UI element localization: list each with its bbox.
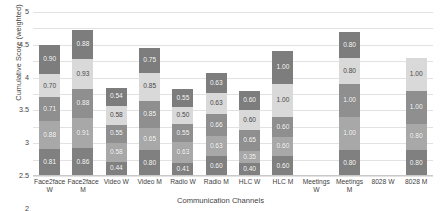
bar-segment-value: 0.60 [277, 124, 290, 131]
bar-segment-value: 0.88 [77, 41, 90, 48]
stacked-bar[interactable]: 0.750.850.850.650.80 [139, 48, 160, 176]
x-tick-label: 8028 W [366, 178, 399, 195]
stacked-bar[interactable]: 0.600.600.650.350.40 [239, 91, 260, 176]
x-tick-label: Face2faceM [66, 178, 99, 195]
bar-segment[interactable]: 0.55 [172, 89, 193, 107]
y-tick-label: 5 [25, 8, 29, 15]
bar-segment-value: 0.85 [143, 111, 156, 118]
bar-segment[interactable]: 0.80 [339, 58, 360, 84]
bar-slot[interactable]: 0.550.500.550.630.41 [166, 12, 199, 176]
bar-segment[interactable]: 0.91 [72, 118, 93, 148]
bar-segment-value: 0.93 [77, 71, 90, 78]
bar-segment-value: 0.44 [110, 165, 123, 172]
bar-segment[interactable]: 0.93 [72, 59, 93, 90]
bar-segment[interactable]: 0.80 [406, 124, 427, 150]
bar-segment[interactable]: 0.81 [39, 149, 60, 176]
x-tick-label-line: W [300, 186, 333, 194]
bar-segment[interactable]: 0.80 [139, 150, 160, 176]
x-tick-label: MeetingsW [300, 178, 333, 195]
bar-segment[interactable]: 0.63 [206, 136, 227, 157]
bar-segment-value: 0.40 [243, 166, 256, 173]
bar-segment[interactable]: 0.88 [72, 30, 93, 59]
bar-segment-value: 0.63 [177, 149, 190, 156]
bar-segment[interactable]: 0.60 [206, 156, 227, 176]
x-tick-label-line: HLC M [266, 178, 299, 186]
bar-slot[interactable]: 0.540.580.550.580.44 [100, 12, 133, 176]
stacked-bar[interactable]: 1.001.000.600.600.60 [272, 51, 293, 176]
bar-segment-value: 0.63 [210, 143, 223, 150]
bar-segment[interactable]: 0.55 [172, 124, 193, 142]
bar-segment[interactable]: 0.88 [39, 121, 60, 150]
bar-slot[interactable]: 0.900.700.710.880.81 [33, 12, 66, 176]
bar-segment[interactable]: 0.86 [72, 148, 93, 176]
bar-segment[interactable]: 0.60 [239, 110, 260, 130]
x-tick-label-line: HLC W [233, 178, 266, 186]
bar-segment-value: 0.71 [43, 106, 56, 113]
bar-segment[interactable]: 1.00 [272, 84, 293, 117]
bar-slot[interactable]: 0.880.930.880.910.86 [66, 12, 99, 176]
bar-segment[interactable]: 0.44 [106, 162, 127, 176]
bar-segment-value: 0.86 [77, 159, 90, 166]
bar-segment[interactable]: 0.80 [339, 32, 360, 58]
bar-segment[interactable]: 1.00 [272, 51, 293, 84]
bar-slot[interactable]: 1.001.000.600.600.60 [266, 12, 299, 176]
bar-segment[interactable]: 0.63 [206, 93, 227, 114]
bar-segment-value: 0.60 [277, 143, 290, 150]
bar-slot[interactable]: 0.630.630.660.630.60 [200, 12, 233, 176]
bar-segment[interactable]: 0.35 [239, 151, 260, 162]
bar-segment[interactable]: 1.00 [339, 84, 360, 117]
bar-segment[interactable]: 0.70 [39, 74, 60, 97]
bar-segment[interactable]: 0.65 [139, 128, 160, 149]
stacked-bar[interactable]: 0.880.930.880.910.86 [72, 30, 93, 176]
bar-slot[interactable]: 0.800.801.001.000.80 [333, 12, 366, 176]
bar-segment[interactable]: 0.88 [72, 89, 93, 118]
bar-slot[interactable] [366, 12, 399, 176]
stacked-bar[interactable]: 0.800.801.001.000.80 [339, 32, 360, 176]
bar-segment[interactable]: 0.80 [406, 150, 427, 176]
bar-segment[interactable]: 1.00 [406, 58, 427, 91]
bar-segment[interactable]: 0.58 [106, 143, 127, 162]
bar-slot[interactable] [300, 12, 333, 176]
bar-slot[interactable]: 0.600.600.650.350.40 [233, 12, 266, 176]
bar-segment[interactable]: 0.85 [139, 73, 160, 101]
bar-segment-value: 0.55 [177, 95, 190, 102]
stacked-bar[interactable]: 1.001.000.800.80 [406, 58, 427, 176]
bar-segment[interactable]: 0.60 [272, 117, 293, 137]
bar-slot[interactable]: 0.750.850.850.650.80 [133, 12, 166, 176]
stacked-bar-chart: Cumulative Score (weighted) 00.511.522.5… [0, 0, 441, 211]
bar-segment[interactable]: 0.75 [139, 48, 160, 73]
bar-segment[interactable]: 0.63 [206, 73, 227, 94]
bar-segment-value: 0.81 [43, 159, 56, 166]
bar-segment[interactable]: 0.41 [172, 163, 193, 176]
bar-segment[interactable]: 0.65 [239, 130, 260, 151]
y-tick-label: 3.5 [19, 107, 29, 114]
stacked-bar[interactable]: 0.540.580.550.580.44 [106, 88, 127, 176]
y-tick-label: 4 [25, 74, 29, 81]
bar-segment[interactable]: 0.85 [139, 101, 160, 129]
bar-segment[interactable]: 1.00 [339, 117, 360, 150]
bar-segment[interactable]: 0.54 [106, 88, 127, 106]
bar-segment[interactable]: 0.63 [172, 142, 193, 163]
bar-segment[interactable]: 0.80 [339, 150, 360, 176]
bar-segment-value: 0.91 [77, 130, 90, 137]
bar-segment[interactable]: 0.60 [272, 156, 293, 176]
stacked-bar[interactable]: 0.900.700.710.880.81 [39, 45, 60, 176]
bar-segment[interactable]: 0.60 [239, 91, 260, 111]
bar-segment[interactable]: 0.66 [206, 114, 227, 136]
bar-segment-value: 0.35 [243, 154, 256, 161]
stacked-bar[interactable]: 0.630.630.660.630.60 [206, 73, 227, 176]
bar-segment-value: 0.60 [210, 163, 223, 170]
bar-segment[interactable]: 0.71 [39, 97, 60, 120]
bar-segment[interactable]: 0.58 [106, 106, 127, 125]
bar-slot[interactable]: 1.001.000.800.80 [400, 12, 433, 176]
bar-segment-value: 0.58 [110, 149, 123, 156]
bar-segment[interactable]: 0.60 [272, 137, 293, 157]
bar-segment[interactable]: 0.50 [172, 107, 193, 123]
stacked-bar[interactable]: 0.550.500.550.630.41 [172, 89, 193, 176]
bar-segment-value: 0.55 [177, 130, 190, 137]
x-tick-label-line: 8028 W [366, 178, 399, 186]
bar-segment-value: 1.00 [410, 104, 423, 111]
bar-segment[interactable]: 0.55 [106, 125, 127, 143]
bar-segment[interactable]: 1.00 [406, 91, 427, 124]
bar-segment[interactable]: 0.90 [39, 45, 60, 75]
